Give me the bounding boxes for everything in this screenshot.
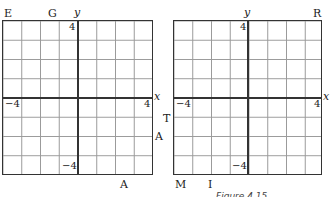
letter-I: I — [208, 179, 212, 190]
left-tick-top: 4 — [69, 22, 75, 32]
letter-M: M — [175, 179, 186, 190]
letter-A-bottom: A — [120, 179, 128, 190]
left-coordinate-grid — [2, 20, 153, 175]
right-tick-top: 4 — [240, 22, 246, 32]
left-tick-right: 4 — [144, 99, 150, 109]
figure-caption: Figure 4.15 — [216, 191, 267, 197]
left-tick-left: −4 — [5, 99, 20, 109]
left-x-axis — [3, 97, 152, 99]
letter-G: G — [48, 8, 57, 19]
left-y-axis-label: y — [74, 7, 80, 18]
letter-E: E — [4, 8, 12, 19]
right-coordinate-grid — [173, 20, 322, 175]
letter-A-mid: A — [155, 131, 163, 142]
left-tick-bottom: −4 — [62, 161, 77, 171]
letter-R: R — [313, 8, 321, 19]
left-x-axis-label: x — [154, 91, 160, 102]
right-tick-bottom: −4 — [232, 161, 247, 171]
right-x-axis — [174, 97, 321, 99]
right-tick-right: 4 — [314, 99, 320, 109]
right-y-axis-label: y — [244, 7, 250, 18]
letter-T: T — [163, 113, 170, 124]
right-x-axis-label: x — [323, 91, 329, 102]
right-tick-left: −4 — [176, 99, 191, 109]
